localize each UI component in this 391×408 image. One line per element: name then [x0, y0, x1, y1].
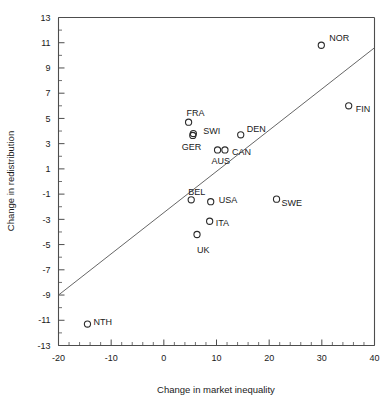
data-point: USA [208, 195, 238, 205]
y-tick-label: -1 [42, 189, 50, 199]
data-points: NORFINFRASWIGERDENCANAUSBELUSASWEITAUKNT… [84, 33, 370, 327]
data-point: FRA [185, 108, 204, 125]
data-point: GER [182, 132, 202, 151]
regression-line [59, 48, 375, 295]
data-point: NOR [318, 33, 350, 48]
point-marker-aus [214, 147, 220, 153]
x-tick-label: 40 [369, 353, 379, 363]
data-point: UK [194, 231, 210, 254]
point-label-swi: SWI [203, 126, 220, 136]
x-tick-label: 10 [211, 353, 221, 363]
data-point: FIN [346, 103, 371, 114]
point-label-nor: NOR [329, 33, 350, 43]
point-marker-den [238, 132, 244, 138]
x-tick-label: 30 [317, 353, 327, 363]
data-point: SWI [190, 126, 220, 137]
point-label-ger: GER [182, 142, 202, 152]
y-tick-label: -5 [42, 240, 50, 250]
data-point: SWE [273, 196, 302, 208]
point-marker-fra [185, 119, 191, 125]
point-label-usa: USA [219, 195, 238, 205]
point-label-fin: FIN [356, 104, 371, 114]
point-label-nth: NTH [93, 317, 112, 327]
point-marker-nth [84, 321, 90, 327]
x-tick-label: -20 [52, 353, 65, 363]
point-label-ita: ITA [216, 218, 229, 228]
x-tick-label: 0 [161, 353, 166, 363]
scatter-chart: -20-10010203040 -13-11-9-7-5-3-113579111… [0, 0, 391, 408]
data-point: AUS [212, 147, 231, 166]
y-tick-label: 1 [45, 164, 50, 174]
point-label-swe: SWE [282, 198, 303, 208]
y-tick-label: 3 [45, 139, 50, 149]
point-marker-swe [273, 196, 279, 202]
point-marker-can [222, 147, 228, 153]
point-label-uk: UK [197, 245, 210, 255]
y-tick-label: -11 [38, 315, 50, 325]
y-tick-label: 11 [41, 38, 50, 48]
y-tick-label: -7 [42, 265, 50, 275]
point-label-den: DEN [247, 124, 266, 134]
point-marker-nor [318, 42, 324, 48]
point-marker-bel [188, 197, 194, 203]
point-marker-ita [207, 218, 213, 224]
y-axis-ticks: -13-11-9-7-5-3-1135791113 [37, 13, 64, 351]
y-tick-label: -9 [42, 290, 50, 300]
y-tick-label: 13 [40, 13, 50, 23]
x-axis-title: Change in market inequality [157, 384, 275, 395]
point-marker-fin [346, 103, 352, 109]
y-tick-label: 5 [45, 114, 50, 124]
y-axis-title: Change in redistribution [5, 131, 16, 231]
fit-line [59, 48, 375, 295]
point-label-bel: BEL [188, 187, 205, 197]
y-tick-label: 9 [45, 63, 50, 73]
point-label-fra: FRA [187, 108, 205, 118]
data-point: NTH [84, 317, 112, 327]
point-marker-uk [194, 231, 200, 237]
data-point: ITA [207, 218, 229, 228]
plot-canvas: -20-10010203040 -13-11-9-7-5-3-113579111… [0, 0, 391, 408]
point-label-aus: AUS [212, 156, 231, 166]
y-tick-label: 7 [45, 88, 50, 98]
x-tick-label: -10 [105, 353, 118, 363]
y-tick-label: -3 [42, 215, 50, 225]
y-tick-label: -13 [37, 341, 50, 351]
point-marker-usa [208, 199, 214, 205]
x-axis-ticks: -20-10010203040 [52, 340, 380, 363]
axis-frame [59, 18, 375, 346]
point-label-can: CAN [232, 147, 251, 157]
x-tick-label: 20 [264, 353, 274, 363]
data-point: BEL [188, 187, 205, 203]
